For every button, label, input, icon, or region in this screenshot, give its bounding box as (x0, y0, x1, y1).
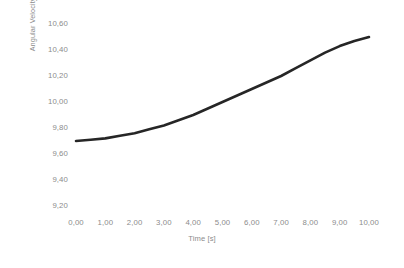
data-series-group (76, 37, 369, 141)
plot-area (0, 0, 404, 268)
series-line (76, 37, 369, 141)
angular-velocity-chart: 9,209,409,609,8010,0010,2010,4010,60 0,0… (0, 0, 404, 268)
